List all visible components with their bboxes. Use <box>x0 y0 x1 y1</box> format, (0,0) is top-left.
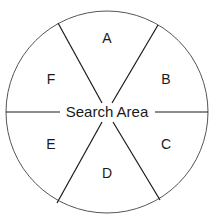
sector-label-c: C <box>161 136 171 152</box>
sector-label-a: A <box>102 30 112 46</box>
center-label: Search Area <box>66 103 149 120</box>
sector-label-f: F <box>47 71 56 87</box>
sector-label-e: E <box>46 136 55 152</box>
search-area-diagram: Search Area A B C D E F <box>0 0 213 217</box>
sector-label-d: D <box>102 165 112 181</box>
sector-label-b: B <box>161 71 170 87</box>
